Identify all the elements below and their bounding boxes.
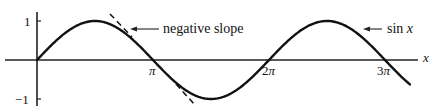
negative-slope-label: negative slope — [163, 21, 243, 36]
y-tick-label-1: 1 — [24, 14, 31, 29]
y-tick-label-neg1: −1 — [15, 92, 29, 107]
sin-x-arrowhead-icon — [363, 27, 370, 32]
x-tick-label-pi: π — [149, 63, 156, 78]
x-axis-label: x — [422, 50, 429, 65]
sine-chart: 1 −1 π 2π 3π x negative slope sin x — [0, 0, 446, 111]
sin-x-label: sin x — [387, 21, 414, 36]
negative-slope-arrowhead-icon — [130, 27, 137, 32]
